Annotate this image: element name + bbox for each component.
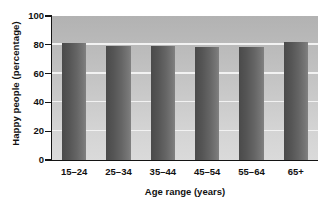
bar <box>284 42 308 160</box>
y-tick-label: 0 <box>0 154 44 165</box>
x-tick-label: 55–64 <box>229 166 273 177</box>
bar <box>151 46 175 160</box>
y-tick-60 <box>45 73 51 74</box>
bar <box>62 43 86 160</box>
y-tick-80 <box>45 44 51 45</box>
y-tick-label: 60 <box>0 68 44 79</box>
plot-area <box>52 16 318 160</box>
y-tick-20 <box>45 131 51 132</box>
bar-chart-figure: Happy people (percentage) 020406080100 1… <box>0 0 328 209</box>
y-tick-0 <box>45 159 51 160</box>
x-tick-label: 45–54 <box>185 166 229 177</box>
bar-series <box>52 16 318 160</box>
bar <box>195 47 219 160</box>
x-tick-label: 25–34 <box>96 166 140 177</box>
bar <box>106 46 130 160</box>
y-tick-100 <box>45 15 51 16</box>
y-tick-40 <box>45 102 51 103</box>
x-tick-label: 15–24 <box>52 166 96 177</box>
x-axis-title: Age range (years) <box>52 186 318 197</box>
x-tick-label: 35–44 <box>141 166 185 177</box>
y-tick-label: 40 <box>0 96 44 107</box>
y-tick-label: 20 <box>0 125 44 136</box>
x-axis-tick-labels: 15–2425–3435–4445–5455–6465+ <box>52 166 318 182</box>
x-axis-line <box>46 160 318 161</box>
bar <box>239 47 263 160</box>
y-axis-line <box>51 15 52 161</box>
y-axis-tick-labels: 020406080100 <box>0 0 44 209</box>
y-tick-label: 100 <box>0 10 44 21</box>
y-tick-label: 80 <box>0 39 44 50</box>
x-tick-label: 65+ <box>274 166 318 177</box>
